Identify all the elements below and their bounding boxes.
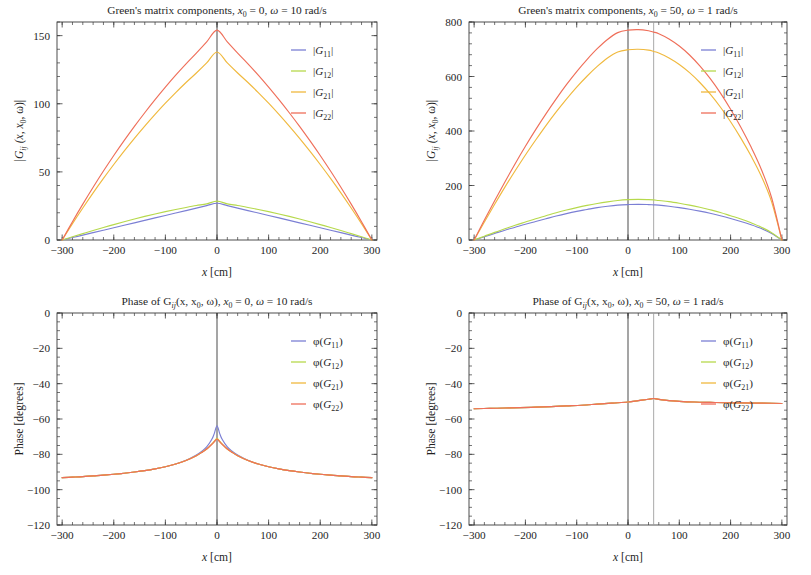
plot-title: Phase of Gij(x, x0, ω), x0 = 50, ω = 1 r… xyxy=(533,295,725,310)
y-tick-label: 0 xyxy=(44,234,50,246)
x-tick-label: 200 xyxy=(722,244,739,256)
legend-label-G22: |G22| xyxy=(723,107,743,122)
legend-label-G22: φ(G22) xyxy=(313,398,343,413)
legend-label-G21: φ(G21) xyxy=(723,377,753,392)
x-tick-label: 0 xyxy=(625,244,631,256)
x-tick-label: −100 xyxy=(565,529,588,541)
x-tick-label: 100 xyxy=(671,244,688,256)
legend-label-G12: |G12| xyxy=(313,65,333,80)
legend: φ(G11)φ(G12)φ(G21)φ(G22) xyxy=(291,335,343,413)
y-tick-label: 0 xyxy=(44,307,50,319)
legend-label-G11: |G11| xyxy=(313,44,333,59)
x-tick-label: 300 xyxy=(773,244,790,256)
plot-panel-magnitude-x0-0: Green's matrix components, x0 = 0, ω = 1… xyxy=(0,0,406,288)
y-tick-label: −40 xyxy=(445,378,463,390)
y-tick-label: −60 xyxy=(33,413,51,425)
y-tick-label: 150 xyxy=(33,30,50,42)
x-tick-label: −300 xyxy=(463,529,486,541)
y-tick-label: 800 xyxy=(445,16,462,28)
x-tick-label: 0 xyxy=(625,529,631,541)
x-tick-label: −200 xyxy=(102,244,125,256)
y-tick-label: 100 xyxy=(33,98,50,110)
y-axis-label: Phase [degrees] xyxy=(13,382,26,455)
x-tick-label: 0 xyxy=(214,529,220,541)
x-tick-label: 300 xyxy=(363,529,380,541)
plot-title: Phase of Gij(x, x0, ω), x0 = 0, ω = 10 r… xyxy=(122,295,314,310)
y-axis-label: |Gij (x, x0, ω)| xyxy=(425,100,440,162)
legend: φ(G11)φ(G12)φ(G21)φ(G22) xyxy=(701,335,753,413)
x-tick-label: 100 xyxy=(260,244,277,256)
x-tick-label: −100 xyxy=(565,244,588,256)
x-tick-label: −300 xyxy=(51,529,74,541)
legend-label-G22: |G22| xyxy=(313,107,333,122)
y-tick-label: −80 xyxy=(445,448,463,460)
x-tick-label: −300 xyxy=(51,244,74,256)
plot-title: Green's matrix components, x0 = 0, ω = 1… xyxy=(107,4,327,19)
y-tick-label: −60 xyxy=(445,413,463,425)
plot-title: Green's matrix components, x0 = 50, ω = … xyxy=(518,4,738,19)
y-tick-label: −20 xyxy=(445,342,463,354)
legend: |G11||G12||G21||G22| xyxy=(291,44,333,122)
x-axis-label: x [cm] xyxy=(201,266,232,279)
y-tick-label: −40 xyxy=(33,378,51,390)
marker-lines xyxy=(628,22,654,240)
y-tick-label: −100 xyxy=(27,484,50,496)
y-tick-label: 600 xyxy=(445,71,462,83)
legend-label-G21: |G21| xyxy=(313,86,333,101)
y-axis-label: |Gij (x, x0, ω)| xyxy=(13,100,28,162)
plot-canvas-phase-x0-50: Phase of Gij(x, x0, ω), x0 = 50, ω = 1 r… xyxy=(406,288,811,575)
legend-label-G12: |G12| xyxy=(723,65,743,80)
plot-canvas-magnitude-x0-0: Green's matrix components, x0 = 0, ω = 1… xyxy=(0,0,406,288)
x-axis-label: x [cm] xyxy=(201,551,232,564)
plot-panel-phase-x0-0: Phase of Gij(x, x0, ω), x0 = 0, ω = 10 r… xyxy=(0,288,406,575)
y-tick-label: −80 xyxy=(33,448,51,460)
x-tick-label: −100 xyxy=(154,244,177,256)
x-tick-label: 0 xyxy=(214,244,220,256)
y-tick-label: −100 xyxy=(439,484,462,496)
x-axis-label: x [cm] xyxy=(612,266,643,279)
legend-label-G21: φ(G21) xyxy=(313,377,343,392)
legend-label-G22: φ(G22) xyxy=(723,398,753,413)
x-tick-label: −100 xyxy=(154,529,177,541)
y-tick-label: 200 xyxy=(445,180,462,192)
legend-label-G11: φ(G11) xyxy=(723,335,753,350)
plot-canvas-magnitude-x0-50: Green's matrix components, x0 = 50, ω = … xyxy=(406,0,811,288)
plot-panel-magnitude-x0-50: Green's matrix components, x0 = 50, ω = … xyxy=(406,0,811,288)
x-axis-label: x [cm] xyxy=(612,551,643,564)
x-tick-label: −200 xyxy=(514,244,537,256)
y-tick-label: 0 xyxy=(456,307,462,319)
legend: |G11||G12||G21||G22| xyxy=(701,44,743,122)
x-tick-label: 200 xyxy=(312,244,329,256)
x-tick-label: −200 xyxy=(102,529,125,541)
x-tick-label: −200 xyxy=(514,529,537,541)
legend-label-G11: φ(G11) xyxy=(313,335,343,350)
x-tick-label: 200 xyxy=(722,529,739,541)
figure-grid: Green's matrix components, x0 = 0, ω = 1… xyxy=(0,0,811,575)
legend-label-G11: |G11| xyxy=(723,44,743,59)
legend-label-G21: |G21| xyxy=(723,86,743,101)
x-tick-label: −300 xyxy=(463,244,486,256)
plot-panel-phase-x0-50: Phase of Gij(x, x0, ω), x0 = 50, ω = 1 r… xyxy=(406,288,811,575)
x-tick-label: 100 xyxy=(671,529,688,541)
plot-canvas-phase-x0-0: Phase of Gij(x, x0, ω), x0 = 0, ω = 10 r… xyxy=(0,288,406,575)
y-tick-label: 0 xyxy=(456,234,462,246)
legend-label-G12: φ(G12) xyxy=(723,356,753,371)
y-tick-label: −20 xyxy=(33,342,51,354)
x-tick-label: 100 xyxy=(260,529,277,541)
y-tick-label: 400 xyxy=(445,125,462,137)
x-tick-label: 300 xyxy=(363,244,380,256)
y-tick-label: −120 xyxy=(27,519,50,531)
y-axis-label: Phase [degrees] xyxy=(425,382,438,455)
y-tick-label: 50 xyxy=(39,166,51,178)
legend-label-G12: φ(G12) xyxy=(313,356,343,371)
marker-lines xyxy=(628,313,654,525)
x-tick-label: 300 xyxy=(773,529,790,541)
x-tick-label: 200 xyxy=(312,529,329,541)
y-tick-label: −120 xyxy=(439,519,462,531)
